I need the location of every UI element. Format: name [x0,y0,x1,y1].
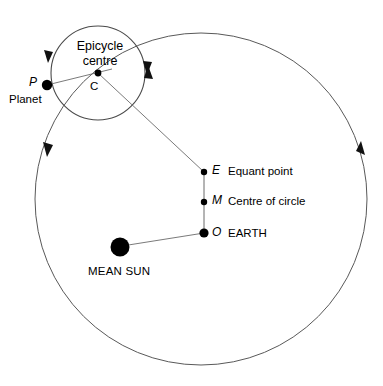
epicycle-centre-label-line2: centre [60,54,140,69]
centre-to-equant-line [98,73,204,172]
centre-of-circle-label: Centre of circle [228,195,305,208]
deferent-circle [35,33,367,365]
c-point-label: C [90,80,98,93]
centre-of-circle-point-marker [201,199,207,205]
epicycle-centre-label-line1: Epicycle [60,39,140,54]
epicycle-centre-label: Epicycle centre [60,39,140,68]
mean-sun-point-marker [111,238,130,257]
p-point-label: P [29,76,37,89]
planet-point-marker [42,80,52,90]
diagram-canvas [0,0,383,386]
mean-sun-label: MEAN SUN [88,265,150,278]
epicycle-left-arrow-icon [44,50,53,63]
earth-point-marker [199,228,208,237]
o-point-label: O [212,226,221,239]
deferent-left-arrow-icon [43,142,53,157]
earth-label: EARTH [228,227,267,240]
epicycle-centre-point-marker [95,70,102,77]
equant-point-marker [201,169,207,175]
ptolemaic-model-diagram: Epicycle centre C P Planet E Equant poin… [0,0,383,386]
earth-to-mean-sun-line [122,233,204,246]
equant-point-label: Equant point [228,165,293,178]
planet-label: Planet [9,93,42,106]
e-point-label: E [212,164,220,177]
m-point-label: M [212,194,222,207]
